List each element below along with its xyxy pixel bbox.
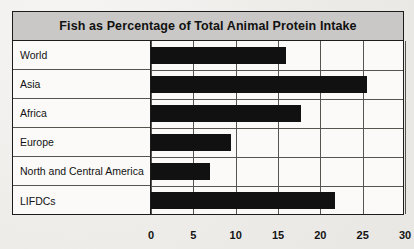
chart-title-band: Fish as Percentage of Total Animal Prote… bbox=[13, 12, 403, 41]
x-tick-label-30: 30 bbox=[399, 229, 411, 241]
category-label-column: WorldAsiaAfricaEuropeNorth and Central A… bbox=[13, 41, 151, 214]
category-label-text: North and Central America bbox=[20, 165, 144, 177]
chart-canvas bbox=[151, 41, 403, 214]
category-label-text: Europe bbox=[20, 136, 54, 148]
bar-lifdcs bbox=[151, 192, 335, 210]
category-label-text: World bbox=[20, 49, 47, 61]
row-separator bbox=[151, 157, 403, 158]
bar-asia bbox=[151, 76, 367, 94]
category-label-text: Africa bbox=[20, 107, 47, 119]
category-label-world: World bbox=[13, 41, 150, 70]
gridline-x-30 bbox=[405, 41, 406, 214]
category-label-north-and-central-america: North and Central America bbox=[13, 157, 150, 186]
row-separator bbox=[151, 99, 403, 100]
gridline-x-20 bbox=[320, 41, 321, 214]
chart-plot-area: WorldAsiaAfricaEuropeNorth and Central A… bbox=[13, 41, 403, 214]
bar-world bbox=[151, 47, 286, 65]
gridline-x-10 bbox=[236, 41, 237, 214]
bar-north-and-central-america bbox=[151, 163, 210, 181]
chart-title: Fish as Percentage of Total Animal Prote… bbox=[59, 19, 356, 33]
bar-europe bbox=[151, 134, 231, 152]
chart-figure: Fish as Percentage of Total Animal Prote… bbox=[12, 11, 404, 215]
row-separator bbox=[151, 70, 403, 71]
x-tick-label-15: 15 bbox=[272, 229, 284, 241]
category-label-europe: Europe bbox=[13, 128, 150, 157]
gridline-x-15 bbox=[278, 41, 279, 214]
x-tick-label-20: 20 bbox=[314, 229, 326, 241]
x-tick-label-0: 0 bbox=[148, 229, 154, 241]
row-separator bbox=[151, 186, 403, 187]
x-tick-label-25: 25 bbox=[357, 229, 369, 241]
category-label-lifdcs: LIFDCs bbox=[13, 186, 150, 215]
category-label-text: Asia bbox=[20, 78, 40, 90]
gridline-x-0 bbox=[151, 41, 152, 214]
gridline-x-5 bbox=[193, 41, 194, 214]
gridline-x-25 bbox=[363, 41, 364, 214]
bar-africa bbox=[151, 105, 301, 123]
category-label-africa: Africa bbox=[13, 99, 150, 128]
row-separator bbox=[151, 128, 403, 129]
category-label-asia: Asia bbox=[13, 70, 150, 99]
x-tick-label-5: 5 bbox=[190, 229, 196, 241]
x-tick-label-10: 10 bbox=[230, 229, 242, 241]
x-axis-tick-labels: 051015202530 bbox=[151, 229, 403, 247]
category-label-text: LIFDCs bbox=[20, 195, 56, 207]
